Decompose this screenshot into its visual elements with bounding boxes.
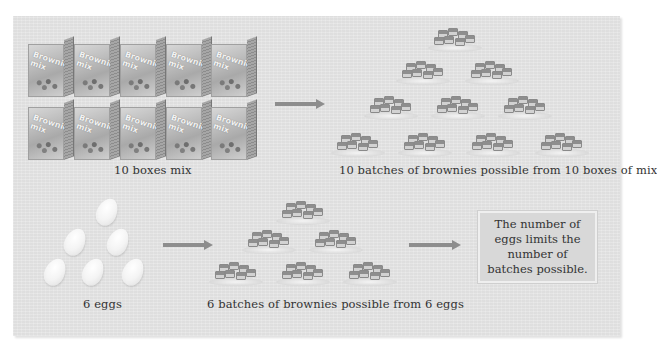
brownie-plate-icon: [276, 199, 330, 225]
brownie-piece: [248, 239, 258, 247]
box-art: [80, 141, 106, 153]
brownie-piece: [380, 269, 390, 277]
brownie-mix-box-icon: Brownie mix: [28, 40, 74, 97]
brownie-piece: [292, 270, 302, 278]
brownie-mix-box-icon: Brownie mix: [211, 103, 257, 160]
eggs-label: 6 eggs: [83, 297, 122, 311]
brownie-piece: [401, 103, 411, 111]
brownie-piece: [434, 37, 444, 45]
brownie-mix-box-icon: Brownie mix: [28, 103, 74, 160]
box-front: Brownie mix: [28, 107, 64, 160]
brownie-piece: [296, 201, 306, 209]
brownie-piece: [315, 239, 325, 247]
box-side: [64, 36, 74, 97]
brownie-piece: [303, 211, 313, 219]
brownie-plate-icon: [498, 94, 552, 120]
brownie-piece: [433, 68, 443, 76]
brownie-piece: [225, 270, 235, 278]
brownie-plate-icon: [309, 228, 363, 254]
brownie-piece: [282, 210, 292, 218]
brownie-plate-icon: [428, 26, 482, 52]
brownie-plate-icon: [343, 260, 397, 286]
brownie-piece: [482, 141, 492, 149]
box-front: Brownie mix: [166, 44, 202, 97]
brownie-piece: [444, 36, 454, 44]
box-side: [247, 99, 257, 160]
brownie-piece: [229, 262, 239, 270]
brownie-piece: [468, 103, 478, 111]
box-side: [64, 99, 74, 160]
brownie-piece: [555, 133, 565, 141]
brownie-piece: [541, 142, 551, 150]
brownie-piece: [391, 106, 401, 114]
box-front: Brownie mix: [74, 107, 110, 160]
brownie-piece: [282, 271, 292, 279]
box-side: [156, 36, 166, 97]
brownie-piece: [384, 96, 394, 104]
box-art: [217, 78, 243, 90]
brownie-plate-icon: [331, 131, 385, 157]
box-side: [110, 36, 120, 97]
brownie-mix-box-icon: Brownie mix: [166, 103, 212, 160]
box-side: [156, 99, 166, 160]
brownie-mix-box-icon: Brownie mix: [120, 40, 166, 97]
brownie-piece: [451, 96, 461, 104]
brownie-plate-icon: [364, 94, 418, 120]
brownie-piece: [448, 28, 458, 36]
box-art: [126, 141, 152, 153]
brownie-piece: [303, 272, 313, 280]
brownie-piece: [502, 68, 512, 76]
right-arrow-icon: [163, 240, 213, 250]
box-art: [172, 141, 198, 153]
brownie-piece: [418, 133, 428, 141]
brownie-plate-icon: [465, 59, 519, 85]
brownie-piece: [572, 140, 582, 148]
box-art: [80, 78, 106, 90]
batches-10-label: 10 batches of brownies possible from 10 …: [339, 163, 657, 177]
boxes-label: 10 boxes mix: [114, 163, 192, 177]
brownie-piece: [215, 271, 225, 279]
box-art: [34, 141, 60, 153]
brownie-piece: [504, 105, 514, 113]
box-art: [126, 78, 152, 90]
brownie-piece: [503, 140, 513, 148]
brownie-piece: [493, 143, 503, 151]
brownie-mix-box-icon: Brownie mix: [74, 40, 120, 97]
brownie-piece: [380, 104, 390, 112]
box-side: [110, 99, 120, 160]
right-arrow-icon: [275, 99, 325, 109]
brownie-mix-box-icon: Brownie mix: [120, 103, 166, 160]
box-front: Brownie mix: [120, 44, 156, 97]
brownie-piece: [423, 71, 433, 79]
brownie-plate-icon: [242, 228, 296, 254]
brownie-piece: [551, 141, 561, 149]
box-art: [172, 78, 198, 90]
brownie-mix-box-icon: Brownie mix: [211, 40, 257, 97]
box-front: Brownie mix: [166, 107, 202, 160]
brownie-piece: [262, 230, 272, 238]
brownie-piece: [296, 262, 306, 270]
brownie-piece: [236, 272, 246, 280]
brownie-piece: [514, 104, 524, 112]
brownie-piece: [465, 35, 475, 43]
brownie-piece: [416, 61, 426, 69]
box-art: [34, 78, 60, 90]
brownie-piece: [336, 240, 346, 248]
brownie-piece: [518, 96, 528, 104]
brownie-piece: [492, 71, 502, 79]
brownie-piece: [481, 69, 491, 77]
brownie-piece: [358, 143, 368, 151]
brownie-piece: [329, 230, 339, 238]
brownie-piece: [313, 269, 323, 277]
brownie-plate-icon: [431, 94, 485, 120]
brownie-piece: [346, 237, 356, 245]
conclusion-callout: The number of eggs limits the number of …: [478, 211, 597, 283]
brownie-piece: [363, 262, 373, 270]
brownie-piece: [325, 238, 335, 246]
brownie-piece: [402, 70, 412, 78]
right-arrow-icon: [409, 240, 461, 250]
brownie-piece: [447, 104, 457, 112]
brownie-plate-icon: [276, 260, 330, 286]
brownie-piece: [471, 70, 481, 78]
box-side: [247, 36, 257, 97]
